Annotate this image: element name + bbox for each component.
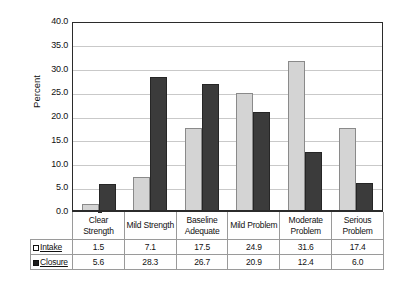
bar-intake[interactable] bbox=[236, 93, 253, 211]
table-value-cell: 26.7 bbox=[176, 255, 228, 270]
table-value-cell: 5.6 bbox=[73, 255, 125, 270]
table-value-cell: 28.3 bbox=[124, 255, 176, 270]
y-axis-tick-labels: 0.05.010.015.020.025.030.035.040.0 bbox=[30, 22, 68, 212]
bar-group bbox=[228, 23, 280, 211]
table-category-header: Mild Strength bbox=[124, 212, 176, 240]
x-axis-line bbox=[73, 210, 382, 212]
table-value-cell: 17.5 bbox=[176, 240, 228, 255]
table-row: Closure5.628.326.720.912.46.0 bbox=[31, 255, 384, 270]
table-category-header: ClearStrength bbox=[73, 212, 125, 240]
legend-label: Intake bbox=[40, 242, 62, 252]
y-tick-label: 30.0 bbox=[34, 65, 68, 74]
plot-frame bbox=[72, 22, 383, 212]
table-category-header: Mild Problem bbox=[228, 212, 280, 240]
bar-group bbox=[125, 23, 177, 211]
table-value-cell: 17.4 bbox=[332, 240, 384, 255]
bar-group bbox=[279, 23, 331, 211]
bar-groups bbox=[73, 23, 382, 211]
y-tick-label: 5.0 bbox=[34, 183, 68, 192]
chart-figure: Percent 0.05.010.015.020.025.030.035.040… bbox=[0, 0, 406, 284]
bar-closure[interactable] bbox=[150, 77, 167, 211]
bar-group bbox=[331, 23, 383, 211]
legend-swatch-closure-icon bbox=[33, 260, 39, 266]
y-tick-label: 35.0 bbox=[34, 41, 68, 50]
table-value-cell: 12.4 bbox=[280, 255, 332, 270]
table-corner-cell bbox=[31, 212, 73, 240]
bar-closure[interactable] bbox=[202, 84, 219, 211]
y-tick-label: 15.0 bbox=[34, 136, 68, 145]
legend-item-intake[interactable]: Intake bbox=[31, 240, 73, 255]
bar-closure[interactable] bbox=[305, 152, 322, 211]
bar-intake[interactable] bbox=[185, 128, 202, 211]
bar-closure[interactable] bbox=[99, 184, 116, 211]
data-table: ClearStrengthMild StrengthBaselineAdequa… bbox=[30, 212, 384, 270]
bar-intake[interactable] bbox=[339, 128, 356, 211]
y-tick-label: 25.0 bbox=[34, 88, 68, 97]
table-value-cell: 31.6 bbox=[280, 240, 332, 255]
table-value-cell: 7.1 bbox=[124, 240, 176, 255]
legend-label: Closure bbox=[40, 257, 68, 267]
y-tick-label: 20.0 bbox=[34, 112, 68, 121]
table-category-header: BaselineAdequate bbox=[176, 212, 228, 240]
table-value-cell: 1.5 bbox=[73, 240, 125, 255]
bar-closure[interactable] bbox=[253, 112, 270, 211]
y-tick-label: 40.0 bbox=[34, 17, 68, 26]
legend-item-closure[interactable]: Closure bbox=[31, 255, 73, 270]
bar-intake[interactable] bbox=[288, 61, 305, 211]
table-row: Intake1.57.117.524.931.617.4 bbox=[31, 240, 384, 255]
data-table-body: ClearStrengthMild StrengthBaselineAdequa… bbox=[31, 212, 384, 270]
table-value-cell: 6.0 bbox=[332, 255, 384, 270]
bar-group bbox=[176, 23, 228, 211]
table-header-row: ClearStrengthMild StrengthBaselineAdequa… bbox=[31, 212, 384, 240]
bar-intake[interactable] bbox=[133, 177, 150, 211]
bar-closure[interactable] bbox=[356, 183, 373, 212]
table-value-cell: 24.9 bbox=[228, 240, 280, 255]
bar-group bbox=[73, 23, 125, 211]
table-value-cell: 20.9 bbox=[228, 255, 280, 270]
plot-area bbox=[72, 22, 383, 212]
y-tick-label: 10.0 bbox=[34, 160, 68, 169]
table-category-header: ModerateProblem bbox=[280, 212, 332, 240]
legend-swatch-intake-icon bbox=[33, 245, 39, 251]
table-category-header: SeriousProblem bbox=[332, 212, 384, 240]
